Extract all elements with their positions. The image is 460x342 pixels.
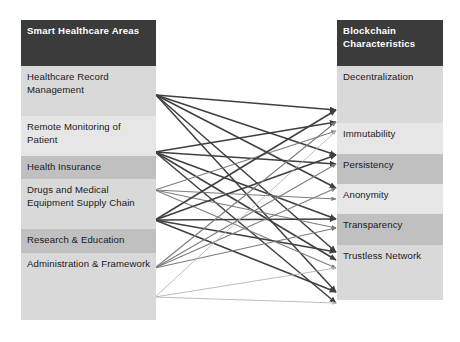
right-node-transparency[interactable]: Transparency (337, 214, 443, 245)
left-column-header: Smart Healthcare Areas (21, 20, 156, 66)
edge-re-to-imm-2 (155, 164, 336, 268)
edge-af-to-trn-2 (155, 297, 336, 303)
edge-rmp-to-tra-2 (155, 152, 336, 260)
left-node-drugs-and-medical-equipment-supply-chain[interactable]: Drugs and Medical Equipment Supply Chain (21, 179, 156, 229)
edge-af-to-tra-3 (155, 268, 336, 297)
left-column-smart-healthcare-areas: Smart Healthcare Areas Healthcare Record… (21, 20, 156, 320)
right-node-decentralization[interactable]: Decentralization (337, 66, 443, 123)
left-node-health-insurance[interactable]: Health Insurance (21, 156, 156, 179)
right-node-trustless-network[interactable]: Trustless Network (337, 245, 443, 300)
edge-rmp-to-dec-2 (155, 122, 336, 152)
edge-hi-to-tra-3 (155, 190, 336, 268)
edge-rmp-to-imm-2 (155, 152, 336, 164)
edge-dmesc-to-tra-1 (155, 220, 336, 252)
right-node-immutability[interactable]: Immutability (337, 123, 443, 154)
edge-re-to-ano-2 (155, 228, 336, 268)
edge-af-to-dec-3 (155, 131, 336, 297)
edge-rmp-to-trn-2 (155, 152, 336, 303)
edge-dmesc-to-imm-1 (155, 155, 336, 220)
edge-hrm-to-trn-1 (156, 95, 336, 292)
left-node-healthcare-record-management[interactable]: Healthcare Record Management (21, 66, 156, 116)
right-node-anonymity[interactable]: Anonymity (337, 184, 443, 214)
edge-re-to-per-1 (155, 188, 336, 268)
edge-dmesc-to-dec-1 (155, 110, 336, 220)
right-column-blockchain-characteristics: Blockchain Characteristics Decentralizat… (337, 20, 443, 300)
edge-hi-to-ano-2 (155, 190, 336, 228)
left-node-remote-monitoring-of-patient[interactable]: Remote Monitoring of Patient (21, 116, 156, 156)
edge-re-to-dec-2 (155, 122, 336, 268)
edge-rmp-to-ano-1 (155, 152, 336, 219)
left-node-research-and-education[interactable]: Research & Education (21, 229, 156, 253)
edge-hi-to-dec-3 (155, 131, 336, 190)
edge-dmesc-to-ano-1 (155, 219, 336, 220)
edge-hrm-to-imm-1 (156, 95, 336, 155)
edge-hrm-to-dec-1 (156, 95, 336, 110)
edge-dmesc-to-trn-1 (155, 220, 336, 292)
edge-hrm-to-tra-1 (156, 95, 336, 252)
edge-hi-to-per-2 (155, 190, 336, 199)
diagram-canvas: Smart Healthcare Areas Healthcare Record… (0, 0, 460, 342)
right-column-header: Blockchain Characteristics (337, 20, 443, 66)
edge-hrm-to-per-1 (156, 95, 336, 188)
right-node-persistency[interactable]: Persistency (337, 154, 443, 184)
left-node-administration-and-framework[interactable]: Administration & Framework (21, 253, 156, 320)
